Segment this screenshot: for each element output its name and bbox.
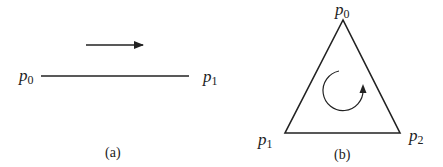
diagram-canvas: p0 p1 (a) p0 p1 p2 (b) <box>0 0 443 167</box>
panel-a: p0 p1 (a) <box>18 45 218 161</box>
rotation-arrow <box>323 71 363 111</box>
label-vertex-p2: p2 <box>408 126 424 147</box>
label-p1: p1 <box>202 67 218 88</box>
label-vertex-p1: p1 <box>257 130 273 151</box>
caption-a: (a) <box>105 145 121 161</box>
label-p0: p0 <box>18 66 34 87</box>
label-vertex-p0: p0 <box>334 0 350 21</box>
rotation-arrowhead <box>360 84 367 93</box>
triangle <box>285 20 400 133</box>
panel-b: p0 p1 p2 (b) <box>257 0 424 163</box>
caption-b: (b) <box>334 147 351 163</box>
